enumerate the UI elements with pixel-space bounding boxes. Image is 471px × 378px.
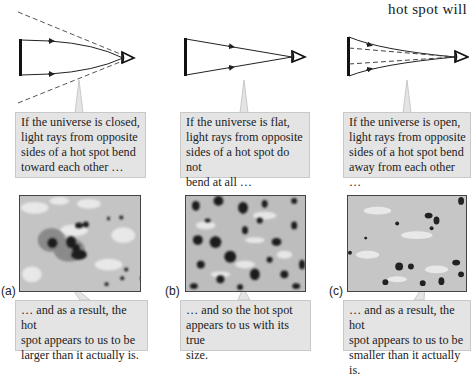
caption-line: light rays from opposite (21, 130, 141, 145)
ray-diagram-flat (184, 38, 305, 76)
caption-line: … and as a result, the hot (21, 303, 143, 333)
caption-line: sides of a hot spot bend (21, 145, 141, 160)
ray-diagram-open (347, 37, 468, 76)
callout-flat-top: If the universe is flat, light rays from… (180, 112, 310, 178)
cmb-map-open (347, 195, 467, 292)
caption-line: bend at all … (186, 175, 305, 190)
caption-line: light rays from opposite (186, 130, 305, 145)
caption-line: … and as a result, the hot (349, 303, 466, 333)
caption-line: appears to us with its true (186, 318, 306, 348)
panel-label-c: (c) (329, 284, 343, 298)
callout-flat-bottom: … and so the hot spot appears to us with… (180, 300, 311, 351)
caption-line: away from each other … (349, 160, 466, 190)
caption-line: If the universe is closed, (21, 115, 141, 130)
panel-label-b: (b) (165, 284, 180, 298)
callout-closed-top: If the universe is closed, light rays fr… (15, 112, 146, 178)
caption-line: sides of a hot spot do not (186, 145, 305, 175)
panel-label-a: (a) (1, 284, 16, 298)
caption-line: toward each other … (21, 160, 141, 175)
caption-line: size. (186, 348, 306, 363)
caption-line: If the universe is open, (349, 115, 466, 130)
cmb-map-closed (19, 195, 141, 292)
caption-line: … and so the hot spot (186, 303, 306, 318)
callout-open-top: If the universe is open, light rays from… (343, 112, 471, 178)
cmb-map-flat (185, 195, 306, 292)
ray-diagrams (0, 0, 469, 110)
caption-line: spot appears to us to be (349, 333, 466, 348)
caption-line: sides of a hot spot bend (349, 145, 466, 160)
callout-open-bottom: … and as a result, the hot spot appears … (343, 300, 471, 351)
caption-line: spot appears to us to be (21, 333, 143, 348)
ray-diagram-closed (18, 12, 134, 103)
caption-line: smaller than it actually is. (349, 348, 466, 378)
caption-line: larger than it actually is. (21, 348, 143, 363)
callout-closed-bottom: … and as a result, the hot spot appears … (15, 300, 148, 351)
caption-line: light rays from opposite (349, 130, 466, 145)
caption-line: If the universe is flat, (186, 115, 305, 130)
